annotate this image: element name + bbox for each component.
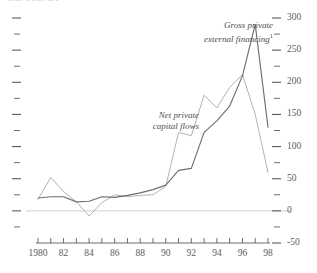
x-tick-label: 98 — [251, 248, 285, 258]
annotation-gross-line2: external financing — [204, 34, 270, 44]
y-tick-label: -50 — [287, 237, 300, 247]
y-tick-label: 250 — [287, 44, 301, 54]
y-tick-label: 0 — [287, 205, 292, 215]
annotation-net-line1: Net private — [159, 110, 199, 120]
annotation-net-private-capital-flows: Net private capital flows — [125, 110, 199, 131]
annotation-gross-private-external-financing: Gross private external financing1 — [175, 20, 273, 44]
y-tick-label: 200 — [287, 76, 301, 86]
annotation-gross-superscript: 1 — [270, 32, 273, 39]
y-tick-label: 150 — [287, 108, 301, 118]
y-tick-label: 50 — [287, 173, 297, 183]
chart-figure: IMF SURVEY -50050100150200250300 1980828… — [0, 0, 317, 273]
y-tick-label: 300 — [287, 12, 301, 22]
annotation-gross-line1: Gross private — [224, 20, 273, 30]
y-tick-label: 100 — [287, 141, 301, 151]
annotation-net-line2: capital flows — [153, 121, 199, 131]
